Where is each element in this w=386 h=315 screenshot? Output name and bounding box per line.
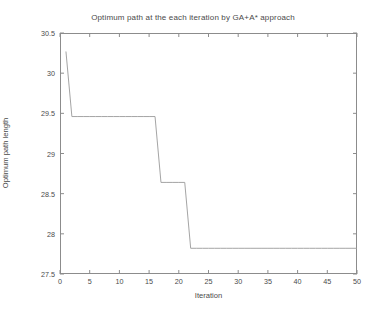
chart-title: Optimum path at the each iteration by GA…	[0, 13, 386, 22]
y-axis-tick-labels: 27.52828.52929.53030.5	[26, 33, 55, 274]
x-tick-label: 35	[264, 277, 272, 286]
x-tick-label: 15	[145, 277, 153, 286]
y-tick-label: 29.5	[41, 109, 55, 118]
y-axis-label: Optimum path length	[1, 118, 10, 189]
x-tick-label: 40	[294, 277, 302, 286]
y-tick-label: 27.5	[41, 270, 55, 279]
optimum-path-length-line	[66, 51, 357, 248]
chart-figure: Optimum path at the each iteration by GA…	[0, 0, 386, 315]
x-tick-label: 45	[323, 277, 331, 286]
y-tick-label: 28.5	[41, 189, 55, 198]
x-tick-label: 30	[234, 277, 242, 286]
x-tick-label: 5	[88, 277, 92, 286]
y-tick-label: 30.5	[41, 29, 55, 38]
y-tick-label: 28	[47, 229, 55, 238]
plot-area	[60, 33, 357, 274]
y-tick-label: 30	[47, 69, 55, 78]
x-axis-label: Iteration	[60, 291, 357, 300]
x-tick-label: 10	[115, 277, 123, 286]
axis-tick-marks	[60, 33, 357, 274]
x-tick-label: 25	[205, 277, 213, 286]
series-svg	[60, 33, 357, 274]
y-tick-label: 29	[47, 149, 55, 158]
x-axis-tick-labels: 05101520253035404550	[60, 277, 357, 289]
x-tick-label: 0	[58, 277, 62, 286]
x-tick-label: 50	[353, 277, 361, 286]
x-tick-label: 20	[175, 277, 183, 286]
